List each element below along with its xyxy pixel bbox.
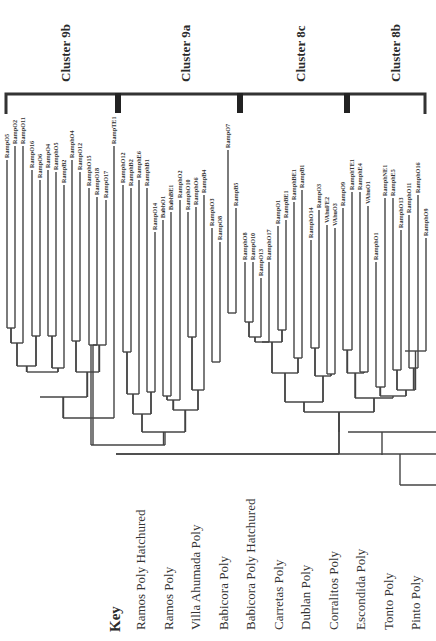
- leaf-label: RamphB1: [143, 159, 150, 186]
- leaf-label: RamphTE1: [348, 159, 355, 190]
- leaf-label: VAhuO3: [331, 203, 338, 226]
- cluster-label: Cluster 8c: [293, 25, 308, 82]
- bracket-divider: [344, 93, 350, 113]
- bracket-divider: [115, 93, 121, 113]
- leaf-label: RampB4: [200, 170, 207, 193]
- leaf-label: RamphO6: [192, 177, 199, 205]
- leaf-label: RampO13: [257, 249, 264, 276]
- leaf-label: RampO16: [28, 141, 35, 168]
- leaf-label: VAhuFE2: [323, 197, 330, 223]
- leaf-label: RampO8: [216, 216, 223, 240]
- leaf-label: RampO1: [274, 200, 281, 224]
- leaf-label: RamphO12: [119, 152, 126, 183]
- leaf-label: RampO9: [339, 182, 346, 206]
- leaf-label: RamphO1: [372, 232, 379, 260]
- leaf-label: RamphO14: [307, 207, 314, 238]
- cluster-labels: Cluster 9bCluster 9aCluster 8cCluster 8b: [58, 24, 403, 82]
- key-legend: Key Ramos Poly HatchuredRamos PolyVilla …: [107, 498, 423, 632]
- leaf-label: RamphBE1: [290, 169, 297, 200]
- cluster-label: Cluster 8b: [388, 24, 403, 82]
- leaf-label: RampO14: [151, 203, 158, 230]
- leaf-label: RampO4: [44, 144, 51, 168]
- key-item: Tonto Poly: [381, 572, 396, 630]
- leaf-label: RampO10: [249, 233, 256, 260]
- key-item: Villa Ahumada Poly: [188, 524, 203, 630]
- bracket-line: [6, 94, 425, 114]
- leaf-label: RamphE4: [356, 163, 363, 190]
- key-item: Escondida Poly: [353, 548, 368, 630]
- leaf-label: RamphO13: [397, 197, 404, 228]
- leaf-label: RampB2: [60, 160, 67, 183]
- dendrogram-figure: Cluster 9bCluster 9aCluster 8cCluster 8b…: [0, 0, 436, 641]
- leaf-label: RamphO9: [422, 208, 429, 236]
- leaf-label: RampO12: [76, 143, 83, 170]
- leaf-label: RampB1: [298, 165, 305, 188]
- leaf-label: RamphO10: [184, 179, 191, 210]
- leaf-label: RamphE5: [389, 169, 396, 196]
- leaf-label: RampO11: [19, 117, 26, 144]
- leaf-label: RamphO5: [52, 142, 59, 170]
- leaf-label: RamphO3: [208, 198, 215, 226]
- leaf-label: RamphO8: [241, 232, 248, 260]
- leaf-label: RampB5: [232, 183, 239, 206]
- key-item: Carretas Poly: [271, 559, 286, 630]
- key-item: Pinto Poly: [408, 575, 423, 630]
- leaf-label: RampO6: [36, 154, 43, 178]
- leaf-label: RamphO4: [68, 130, 75, 158]
- key-item: Ramos Poly: [161, 566, 176, 630]
- leaf-label: RampO17: [102, 171, 109, 198]
- leaf-label: RamphB2: [127, 159, 134, 186]
- leaf-label: RamphO11: [405, 183, 412, 213]
- leaf-label: RamphO16: [414, 162, 421, 193]
- leaf-label: RamphO17: [265, 229, 272, 260]
- key-item: Dublan Poly: [298, 564, 313, 630]
- leaf-label: RampTE1: [110, 116, 117, 144]
- cluster-label: Cluster 9a: [178, 24, 193, 82]
- key-item: Babicora Poly: [216, 555, 231, 630]
- leaf-label: RamphE6: [135, 151, 142, 178]
- leaf-label: RampBE1: [282, 190, 289, 218]
- leaf-label: RampO3: [315, 184, 322, 208]
- cluster-bracket: [6, 93, 425, 114]
- cluster-label: Cluster 9b: [58, 24, 73, 82]
- key-title: Key: [107, 606, 123, 632]
- leaf-label: RamphNE1: [381, 165, 388, 196]
- leaf-label: RampO5: [3, 134, 10, 158]
- leaf-label: RampO2: [11, 120, 18, 144]
- leaf-labels: RampO5RampO2RampO11RampO16RampO6RampO4Ra…: [3, 116, 429, 276]
- bracket-divider: [237, 93, 243, 113]
- key-item: Ramos Poly Hatchured: [133, 509, 148, 630]
- leaf-label: VAhuO1: [364, 181, 371, 204]
- key-item: Babicora Poly Hatchured: [243, 498, 258, 630]
- key-item: Corralitos Poly: [326, 550, 341, 630]
- leaf-label: BabhO1: [159, 196, 166, 218]
- dendrogram-tree: [7, 146, 436, 485]
- leaf-label: BabhBE1: [167, 185, 174, 210]
- leaf-label: RamphO15: [85, 155, 92, 186]
- leaf-label: RamphO2: [176, 170, 183, 198]
- leaf-label: RampO18: [93, 168, 100, 195]
- leaf-label: RampO7: [224, 124, 231, 148]
